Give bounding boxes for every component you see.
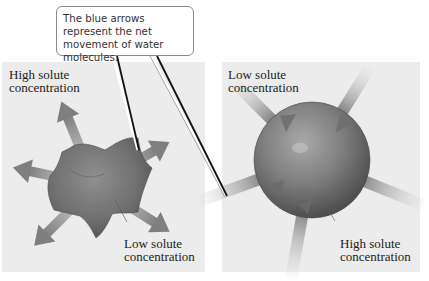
right-inner-label-line2: concentration <box>340 250 411 263</box>
callout-box: The blue arrows represent the net moveme… <box>56 6 194 56</box>
right-inner-label: High solute concentration <box>340 237 411 263</box>
arrow-in-icon <box>336 64 375 117</box>
swollen-cell <box>254 102 370 218</box>
right-top-label-line2: concentration <box>228 81 299 94</box>
arrow-in-icon <box>285 208 309 279</box>
left-inner-label: Low solute concentration <box>124 237 195 263</box>
right-top-label: Low solute concentration <box>228 68 299 94</box>
left-inner-label-line2: concentration <box>124 250 195 263</box>
left-top-label-line2: concentration <box>9 81 80 94</box>
osmosis-figure: The blue arrows represent the net moveme… <box>0 0 429 281</box>
left-top-label: High solute concentration <box>9 68 80 94</box>
